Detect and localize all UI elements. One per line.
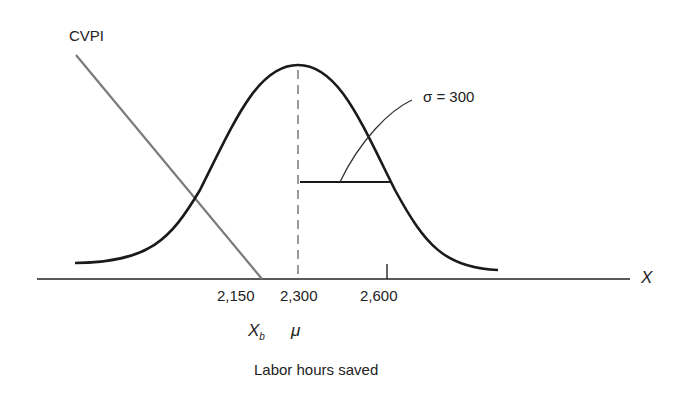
diagram-graphic — [0, 0, 691, 404]
cvpi-line — [76, 55, 262, 279]
mu-symbol: μ — [291, 321, 300, 341]
cvpi-label: CVPI — [69, 27, 104, 44]
tick-label-2600: 2,600 — [360, 287, 398, 304]
x-axis-title: Labor hours saved — [254, 361, 378, 378]
cvpi-normal-diagram: CVPI σ = 300 X 2,150 2,300 2,600 Xb μ La… — [0, 0, 691, 404]
tick-label-2150: 2,150 — [217, 287, 255, 304]
sigma-leader — [340, 100, 412, 182]
xb-symbol: Xb — [248, 321, 265, 342]
sigma-label: σ = 300 — [423, 88, 474, 105]
axis-variable-label: X — [641, 268, 652, 288]
tick-label-2300: 2,300 — [280, 287, 318, 304]
